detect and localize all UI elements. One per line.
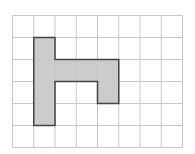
grid-canvas bbox=[12, 15, 183, 148]
grid-diagram bbox=[12, 15, 183, 148]
